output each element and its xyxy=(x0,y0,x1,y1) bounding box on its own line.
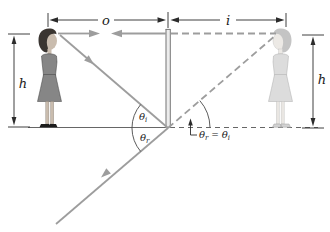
image-bodice xyxy=(273,54,289,76)
image-leg-front xyxy=(276,102,279,125)
image-neck xyxy=(279,49,283,54)
i-arrow-left-icon xyxy=(171,17,180,23)
virtual-ray-diagonal xyxy=(168,35,276,128)
incident-ray xyxy=(60,35,168,128)
o-arrow-right-icon xyxy=(158,17,167,23)
image-leg-back xyxy=(281,102,284,125)
reflection-law-label: θr = θi xyxy=(199,129,230,142)
object-leg-front xyxy=(51,102,54,125)
image-skirt xyxy=(269,75,293,102)
object-figure xyxy=(38,29,62,128)
equation-equals-sign: = xyxy=(208,130,221,140)
equation-theta-i-subscript: i xyxy=(228,134,230,142)
object-leg-back xyxy=(46,102,49,125)
image-shoes xyxy=(273,124,291,127)
image-distance-label: i xyxy=(226,13,230,28)
reflected-ray xyxy=(56,128,168,224)
object-neck xyxy=(48,49,52,54)
object-skirt xyxy=(38,75,62,102)
object-distance-label: o xyxy=(102,13,110,28)
image-angle-arc xyxy=(200,101,210,128)
h-right-arrow-up-icon xyxy=(311,37,316,46)
arrowhead-reflected-icon xyxy=(101,168,111,177)
h-left-arrow-down-icon xyxy=(12,117,17,126)
object-bodice xyxy=(42,54,58,76)
h-right-arrow-down-icon xyxy=(311,118,316,127)
arrowhead-back-from-mirror-icon xyxy=(111,30,122,37)
image-height-label: h xyxy=(318,72,326,87)
angle-of-incidence-label: θi xyxy=(139,111,147,124)
diagram-canvas: o i h h θi θr θr = θi xyxy=(0,0,330,232)
object-height-label: h xyxy=(19,76,27,91)
theta-i-subscript: i xyxy=(145,116,147,124)
mirror-reflection-figure: o i h h θi θr θr = θi xyxy=(0,0,330,232)
h-left-arrow-up-icon xyxy=(12,36,17,45)
equation-leader-arrow-icon xyxy=(188,119,193,126)
arrowhead-toward-mirror-icon xyxy=(89,30,100,37)
object-shoes xyxy=(40,124,58,127)
angle-of-reflection-label: θr xyxy=(140,132,150,145)
mirror xyxy=(166,29,171,128)
image-figure xyxy=(269,29,293,128)
i-arrow-right-icon xyxy=(276,17,285,23)
o-arrow-left-icon xyxy=(50,17,59,23)
ray-arrowheads xyxy=(84,30,122,178)
